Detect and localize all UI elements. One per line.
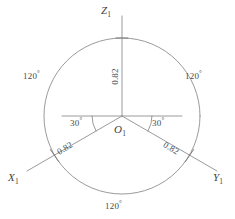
axonometric-axes-diagram: Z1 X1 Y1 O1 0.82 0.82 0.82 120° 120° 120… xyxy=(0,0,235,219)
angle-label-right-120: 120° xyxy=(185,70,202,81)
angle-arc-left-30 xyxy=(92,116,96,131)
origin-label: O1 xyxy=(114,124,126,138)
angle-label-left-30: 30° xyxy=(70,117,82,128)
angle-label-left-120: 120° xyxy=(23,70,40,81)
axis-label-z: Z1 xyxy=(101,5,111,19)
diagram-canvas xyxy=(0,0,235,219)
tick-y-axis xyxy=(185,150,193,162)
axis-label-y: Y1 xyxy=(213,172,223,186)
angle-label-bottom-120: 120° xyxy=(105,200,122,211)
axis-label-x: X1 xyxy=(8,172,19,186)
angle-label-right-30: 30° xyxy=(152,117,164,128)
length-label-z: 0.82 xyxy=(111,64,120,90)
